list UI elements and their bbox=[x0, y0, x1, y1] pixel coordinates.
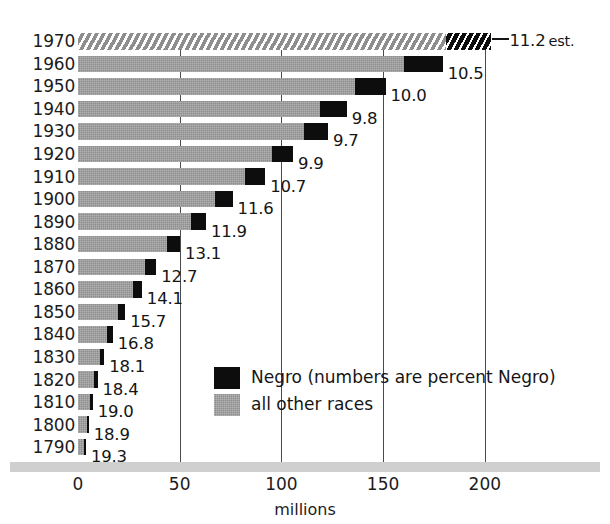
percent-label-1970: 11.2est. bbox=[510, 33, 575, 50]
bar-segment-all-other-races bbox=[78, 236, 167, 253]
year-label-1840: 1840 bbox=[15, 326, 75, 343]
bar-segment-negro bbox=[355, 78, 386, 95]
bar-segment-negro bbox=[167, 236, 180, 253]
population-bar-chart: 1970196019501940193019201910190018901880… bbox=[0, 0, 610, 524]
bar-row bbox=[78, 326, 113, 343]
bar-segment-negro bbox=[90, 394, 93, 411]
year-label-1930: 1930 bbox=[15, 123, 75, 140]
bar-row bbox=[78, 439, 86, 456]
legend-swatch-negro bbox=[214, 367, 240, 389]
year-label-1970: 1970 bbox=[15, 33, 75, 50]
bar-row bbox=[78, 371, 98, 388]
bar-segment-negro bbox=[118, 304, 125, 321]
bar-segment-all-other-races bbox=[78, 394, 90, 411]
bar-row bbox=[78, 101, 347, 118]
year-label-1890: 1890 bbox=[15, 214, 75, 231]
legend-label-negro: Negro (numbers are percent Negro) bbox=[251, 369, 556, 386]
percent-label-1870: 12.7 bbox=[161, 269, 197, 286]
bar-row bbox=[78, 146, 293, 163]
percent-label-1820: 18.4 bbox=[103, 382, 139, 399]
percent-label-1830: 18.1 bbox=[109, 359, 145, 376]
year-label-1820: 1820 bbox=[15, 372, 75, 389]
bar-segment-all-other-races bbox=[78, 101, 320, 118]
bar-row bbox=[78, 33, 492, 50]
bar-segment-all-other-races bbox=[78, 349, 100, 366]
bar-segment-all-other-races bbox=[78, 56, 404, 73]
bar-row bbox=[78, 394, 93, 411]
year-label-1790: 1790 bbox=[15, 439, 75, 456]
bar-row bbox=[78, 304, 125, 321]
bar-segment-negro bbox=[272, 146, 293, 163]
legend-item-negro: Negro (numbers are percent Negro) bbox=[214, 364, 544, 391]
bar-segment-all-other-races bbox=[78, 371, 94, 388]
year-label-1920: 1920 bbox=[15, 146, 75, 163]
year-label-1940: 1940 bbox=[15, 101, 75, 118]
year-label-1880: 1880 bbox=[15, 236, 75, 253]
bar-segment-negro bbox=[215, 191, 233, 208]
percent-label-1810: 19.0 bbox=[98, 404, 134, 421]
percent-label-1860: 14.1 bbox=[147, 291, 183, 308]
percent-label-1910: 10.7 bbox=[270, 179, 306, 196]
year-label-1810: 1810 bbox=[15, 394, 75, 411]
year-label-1860: 1860 bbox=[15, 281, 75, 298]
legend-swatch-all-other-races bbox=[214, 394, 240, 416]
bar-segment-all-other-races bbox=[78, 146, 272, 163]
percent-label-1960: 10.5 bbox=[448, 66, 484, 83]
year-label-1870: 1870 bbox=[15, 259, 75, 276]
bar-segment-negro bbox=[145, 259, 156, 276]
percent-label-1790: 19.3 bbox=[91, 449, 127, 466]
year-label-1960: 1960 bbox=[15, 56, 75, 73]
percent-label-1890: 11.9 bbox=[211, 224, 247, 241]
bar-row bbox=[78, 78, 386, 95]
bar-segment-negro bbox=[245, 168, 265, 185]
bar-row bbox=[78, 236, 180, 253]
year-label-1830: 1830 bbox=[15, 349, 75, 366]
year-label-1900: 1900 bbox=[15, 191, 75, 208]
percent-label-1850: 15.7 bbox=[130, 314, 166, 331]
bar-row bbox=[78, 123, 328, 140]
bar-row bbox=[78, 259, 156, 276]
leader-line-1970 bbox=[492, 38, 509, 40]
x-axis-title: millions bbox=[0, 500, 610, 519]
x-tick-label-50: 50 bbox=[150, 476, 210, 493]
year-label-1800: 1800 bbox=[15, 417, 75, 434]
percent-label-1950: 10.0 bbox=[391, 88, 427, 105]
bar-segment-negro bbox=[84, 439, 86, 456]
percent-label-1800: 18.9 bbox=[94, 427, 130, 444]
bar-segment-negro bbox=[191, 213, 206, 230]
bar-segment-all-other-races bbox=[78, 168, 245, 185]
x-tick-label-200: 200 bbox=[455, 476, 515, 493]
percent-label-1880: 13.1 bbox=[185, 246, 221, 263]
plot-area bbox=[78, 0, 610, 524]
percent-label-1920: 9.9 bbox=[298, 156, 324, 173]
legend-item-all-other-races: all other races bbox=[214, 391, 544, 418]
bar-segment-all-other-races bbox=[78, 213, 191, 230]
percent-label-1840: 16.8 bbox=[118, 336, 154, 353]
bar-segment-negro bbox=[304, 123, 328, 140]
bar-row bbox=[78, 168, 265, 185]
bar-row bbox=[78, 349, 104, 366]
bar-segment-negro bbox=[94, 371, 98, 388]
year-label-1910: 1910 bbox=[15, 169, 75, 186]
bar-row bbox=[78, 416, 89, 433]
bar-row bbox=[78, 56, 443, 73]
bar-segment-negro bbox=[100, 349, 105, 366]
percent-label-1900: 11.6 bbox=[238, 201, 274, 218]
chart-legend: Negro (numbers are percent Negro) all ot… bbox=[214, 364, 544, 418]
percent-label-suffix: est. bbox=[548, 33, 574, 49]
bar-segment-all-other-races bbox=[78, 326, 107, 343]
bar-segment-all-other-races bbox=[78, 416, 87, 433]
bar-segment-all-other-races bbox=[78, 281, 133, 298]
percent-label-1930: 9.7 bbox=[333, 133, 359, 150]
year-label-1950: 1950 bbox=[15, 78, 75, 95]
bar-segment-negro bbox=[320, 101, 346, 118]
bar-segment-all-other-races bbox=[78, 33, 446, 50]
x-tick-label-100: 100 bbox=[251, 476, 311, 493]
year-label-1850: 1850 bbox=[15, 304, 75, 321]
x-tick-label-150: 150 bbox=[353, 476, 413, 493]
bar-segment-all-other-races bbox=[78, 191, 215, 208]
bar-segment-all-other-races bbox=[78, 123, 304, 140]
year-axis: 1970196019501940193019201910190018901880… bbox=[12, 0, 75, 524]
bar-segment-negro bbox=[87, 416, 89, 433]
bar-segment-negro bbox=[107, 326, 113, 343]
